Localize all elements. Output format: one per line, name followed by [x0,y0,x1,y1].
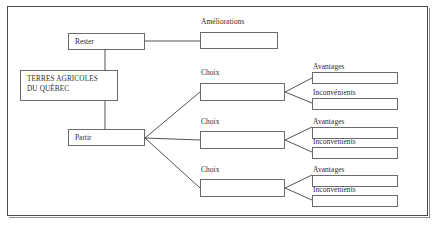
caption-choix-2: Choix [201,117,220,126]
node-rester-label: Rester [69,37,94,47]
caption-choix-3: Choix [201,165,220,174]
caption-avantages-1: Avantages [313,62,345,71]
caption-ameliorations: Améliorations [201,17,245,26]
caption-inconvenients-2: Inconvénients [313,137,356,146]
node-rester[interactable]: Rester [68,33,145,50]
node-partir-label: Partir [69,133,91,143]
caption-choix-1: Choix [201,68,220,77]
node-choix-2[interactable] [200,131,285,149]
node-root[interactable]: TERRES AGRICOLES DU QUÉBEC [20,70,118,101]
caption-avantages-3: Avantages [313,165,345,174]
caption-inconvenients-1: Inconvénients [313,88,356,97]
diagram-canvas: TERRES AGRICOLES DU QUÉBEC Rester Partir… [0,0,438,228]
node-root-line1: TERRES AGRICOLES [21,75,117,85]
node-partir[interactable]: Partir [68,129,145,146]
caption-inconvenients-3: Inconvénients [313,185,356,194]
node-inconvenients-3[interactable] [312,195,398,207]
caption-avantages-2: Avantages [313,117,345,126]
node-inconvenients-1[interactable] [312,98,398,110]
node-avantages-1[interactable] [312,72,398,84]
node-root-line2: DU QUÉBEC [21,85,117,95]
node-inconvenients-2[interactable] [312,147,398,159]
node-choix-1[interactable] [200,83,285,101]
node-choix-3[interactable] [200,179,285,197]
node-ameliorations[interactable] [200,32,278,49]
